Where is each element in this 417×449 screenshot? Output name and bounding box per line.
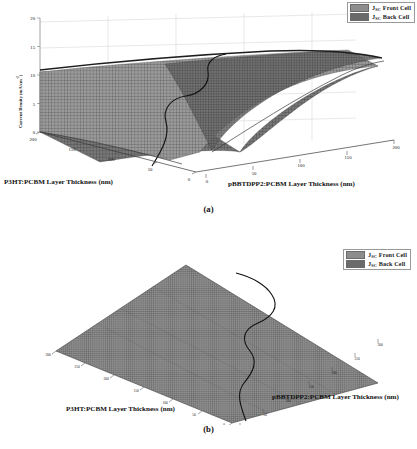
b-x-right-tick-300: 300 bbox=[377, 343, 383, 347]
legend-label-front: JSC Front Cell bbox=[372, 4, 411, 12]
legend-swatch-front-icon bbox=[350, 4, 369, 12]
x-axis-left-title-a: P3HT:PCBM Layer Thickness (nm) bbox=[4, 178, 113, 186]
b-x-right-tick-150: 150 bbox=[308, 385, 314, 389]
b-x-right-tick-200: 200 bbox=[331, 371, 337, 375]
z-tick-15: 15 bbox=[30, 45, 35, 50]
x-right-tick-200: 200 bbox=[392, 145, 400, 150]
surface-plot-a: 0 5 10 15 20 bbox=[0, 0, 417, 200]
legend-label-back: JSC Back Cell bbox=[372, 13, 409, 21]
b-x-left-tick-300: 300 bbox=[45, 353, 51, 357]
x-left-tick-0: 0 bbox=[188, 177, 191, 182]
x-left-tick-150: 150 bbox=[68, 147, 76, 152]
b-x-left-tick-50: 50 bbox=[192, 413, 196, 417]
x-left-tick-200: 200 bbox=[29, 137, 37, 142]
legend-item-jsc-back-b: JSC Back Cell bbox=[346, 260, 407, 268]
legend-label-front-b: JSC Front Cell bbox=[368, 251, 407, 259]
y-axis-title: Current Density (mA/cm-2) bbox=[16, 75, 23, 128]
z-tick-5: 5 bbox=[33, 102, 36, 107]
z-tick-20: 20 bbox=[30, 16, 35, 21]
x-left-tick-100: 100 bbox=[107, 157, 115, 162]
legend-item-jsc-front: JSC Front Cell bbox=[350, 4, 411, 12]
legend-panel-b: JSC Front Cell JSC Back Cell bbox=[343, 249, 411, 270]
legend-label-back-b: JSC Back Cell bbox=[368, 260, 405, 268]
b-x-left-tick-250: 250 bbox=[74, 365, 80, 369]
legend-swatch-back-icon-b bbox=[346, 260, 365, 268]
panel-b: 300 250 200 150 100 50 0 0 50 100 150 20… bbox=[0, 225, 417, 449]
panel-a: 0 5 10 15 20 bbox=[0, 0, 417, 225]
b-x-right-tick-50: 50 bbox=[263, 413, 267, 417]
legend-item-jsc-front-b: JSC Front Cell bbox=[346, 251, 407, 259]
z-tick-0: 0 bbox=[33, 130, 36, 135]
x-right-tick-100: 100 bbox=[297, 163, 305, 168]
z-tick-10: 10 bbox=[30, 73, 35, 78]
figure-container: 0 5 10 15 20 bbox=[0, 0, 417, 449]
x-left-tick-50: 50 bbox=[148, 167, 153, 172]
legend-panel-a: JSC Front Cell JSC Back Cell bbox=[347, 2, 415, 23]
b-x-right-tick-250: 250 bbox=[354, 357, 360, 361]
x-axis-left-title-b: P3HT:PCBM Layer Thickness (nm) bbox=[66, 405, 175, 413]
legend-item-jsc-back: JSC Back Cell bbox=[350, 13, 411, 21]
x-right-tick-150: 150 bbox=[344, 155, 352, 160]
x-axis-right-title-a: pBBTDPP2:PCBM Layer Thickness (nm) bbox=[228, 180, 355, 188]
x-right-tick-0: 0 bbox=[206, 179, 209, 184]
x-axis-right-title-b: pBBTDPP2:PCBM Layer Thickness (nm) bbox=[272, 393, 399, 401]
legend-swatch-back-icon bbox=[350, 13, 369, 21]
caption-a: (a) bbox=[0, 204, 417, 214]
b-x-left-tick-200: 200 bbox=[103, 377, 109, 381]
x-right-tick-50: 50 bbox=[252, 171, 257, 176]
legend-swatch-front-icon-b bbox=[346, 251, 365, 259]
caption-b: (b) bbox=[0, 424, 417, 434]
b-x-left-tick-150: 150 bbox=[133, 389, 139, 393]
